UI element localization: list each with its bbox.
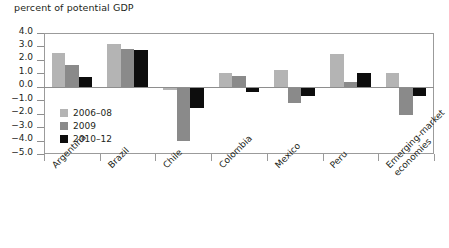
y-axis-tick-mark: [37, 154, 44, 155]
legend-item: 2009: [60, 120, 112, 132]
bar-group: [219, 33, 260, 154]
category-separator-tick: [323, 154, 324, 161]
bar: [79, 77, 93, 86]
legend-swatch: [60, 109, 68, 117]
y-axis-tick-label: 0.0: [19, 80, 33, 89]
bar: [386, 73, 400, 86]
bar-group: [274, 33, 315, 154]
category-separator-tick: [44, 154, 45, 161]
bar: [330, 54, 344, 87]
category-separator-tick: [434, 154, 435, 161]
y-axis-tick-label: 1.0: [19, 67, 33, 76]
chart-legend: 2006–0820092010–12: [60, 107, 112, 146]
y-axis-tick-label: −3.0: [11, 121, 33, 130]
bar: [413, 87, 427, 96]
bar-group: [330, 33, 371, 154]
y-axis-tick-mark: [37, 100, 44, 101]
category-separator-tick: [100, 154, 101, 161]
y-axis-tick-mark: [37, 60, 44, 61]
chart-axis-title: percent of potential GDP: [14, 2, 134, 13]
y-axis-tick-mark: [37, 33, 44, 34]
y-axis-tick-mark: [37, 46, 44, 47]
legend-item: 2010–12: [60, 133, 112, 145]
bar: [274, 70, 288, 87]
bar: [190, 87, 204, 109]
bar: [121, 49, 135, 87]
category-separator-tick: [267, 154, 268, 161]
y-axis-tick-label: −2.0: [11, 107, 33, 116]
bar: [232, 76, 246, 87]
bar: [177, 87, 191, 141]
category-separator-tick: [378, 154, 379, 161]
legend-label: 2009: [73, 122, 96, 131]
y-axis-tick-label: −4.0: [11, 134, 33, 143]
legend-label: 2006–08: [73, 109, 112, 118]
y-axis-tick-label: −1.0: [11, 94, 33, 103]
category-separator-tick: [211, 154, 212, 161]
legend-item: 2006–08: [60, 107, 112, 119]
category-separator-tick: [155, 154, 156, 161]
bar: [399, 87, 413, 115]
bar: [219, 73, 233, 86]
y-axis-tick-label: −5.0: [11, 148, 33, 157]
chart-container: percent of potential GDP 4.03.02.01.00.0…: [0, 0, 449, 248]
y-axis-tick-label: 4.0: [19, 27, 33, 36]
legend-label: 2010–12: [73, 135, 112, 144]
bar-group: [163, 33, 204, 154]
y-axis-tick-mark: [37, 141, 44, 142]
bar: [52, 53, 66, 87]
y-axis-tick-mark: [37, 127, 44, 128]
zero-baseline: [44, 87, 434, 88]
y-axis-tick-mark: [37, 87, 44, 88]
legend-swatch: [60, 122, 68, 130]
y-axis-tick-label: 2.0: [19, 53, 33, 62]
y-axis-tick-mark: [37, 114, 44, 115]
legend-swatch: [60, 135, 68, 143]
bar: [357, 73, 371, 87]
y-axis-tick-mark: [37, 73, 44, 74]
bar: [65, 65, 79, 87]
bar-group: [107, 33, 148, 154]
y-axis-tick-label: 3.0: [19, 40, 33, 49]
bar: [288, 87, 302, 103]
bar: [107, 44, 121, 87]
bar: [301, 87, 315, 96]
bar: [134, 50, 148, 87]
